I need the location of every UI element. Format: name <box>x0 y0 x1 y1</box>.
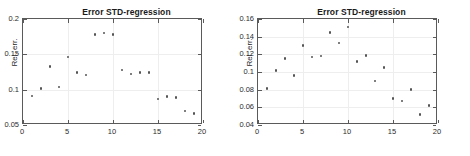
x-tick <box>113 19 114 23</box>
x-gridline <box>303 19 304 123</box>
y-gridline <box>258 107 436 108</box>
x-tick <box>68 19 69 23</box>
x-tick-label: 10 <box>108 127 116 136</box>
data-point <box>94 33 97 36</box>
data-point <box>148 71 151 74</box>
y-tick <box>433 125 437 126</box>
data-point <box>320 55 323 58</box>
x-tick <box>258 19 259 23</box>
x-tick <box>393 120 394 124</box>
data-point <box>383 66 386 69</box>
data-point <box>284 57 287 60</box>
x-tick-label: 20 <box>198 127 206 136</box>
y-tick <box>433 37 437 38</box>
y-gridline <box>23 90 201 91</box>
y-tick <box>198 19 202 20</box>
chart-title: Error STD-regression <box>235 7 470 17</box>
x-tick-label: 15 <box>388 127 396 136</box>
x-gridline <box>68 19 69 123</box>
y-tick <box>23 90 27 91</box>
data-point <box>275 69 278 72</box>
x-tick <box>303 120 304 124</box>
x-tick <box>23 19 24 23</box>
x-tick <box>158 120 159 124</box>
y-tick-label: 0.12 <box>235 49 254 58</box>
data-point <box>58 86 61 89</box>
y-tick <box>23 54 27 55</box>
y-tick <box>198 125 202 126</box>
x-tick-label: 5 <box>65 127 69 136</box>
x-tick <box>303 19 304 23</box>
y-tick-label: 0.04 <box>235 120 254 129</box>
y-gridline <box>23 54 201 55</box>
y-tick-label: 0.08 <box>235 84 254 93</box>
data-point <box>311 56 314 59</box>
y-tick-label: 0.2 <box>0 14 19 23</box>
data-point <box>175 96 178 99</box>
y-tick-label: 0.15 <box>0 49 19 58</box>
y-tick <box>23 125 27 126</box>
data-point <box>166 95 169 98</box>
x-tick <box>438 19 439 23</box>
x-tick-label: 5 <box>300 127 304 136</box>
y-tick <box>198 90 202 91</box>
data-point <box>392 97 395 100</box>
data-point <box>139 71 142 74</box>
data-point <box>76 71 79 74</box>
x-tick <box>348 19 349 23</box>
data-point <box>193 112 196 115</box>
data-point <box>365 54 368 57</box>
y-gridline <box>258 54 436 55</box>
y-tick <box>433 72 437 73</box>
y-tick <box>258 125 262 126</box>
data-point <box>356 60 359 63</box>
plot-area <box>257 18 437 124</box>
y-tick-label: 0.06 <box>235 102 254 111</box>
data-point <box>302 44 305 47</box>
x-tick-label: 0 <box>20 127 24 136</box>
x-tick <box>258 120 259 124</box>
chart-panel-left: Error STD-regression Rel. err. 0.050.10.… <box>0 0 235 156</box>
y-tick-label: 0.16 <box>235 14 254 23</box>
x-tick <box>393 19 394 23</box>
data-point <box>31 95 34 98</box>
plot-area <box>22 18 202 124</box>
y-tick-label: 0.14 <box>235 31 254 40</box>
data-point <box>121 69 124 72</box>
chart-panel-right: Error STD-regression Rel. err. 0.040.060… <box>235 0 470 156</box>
y-tick-label: 0.1 <box>235 67 254 76</box>
y-tick <box>258 37 262 38</box>
x-gridline <box>158 19 159 123</box>
y-tick-label: 0.1 <box>0 84 19 93</box>
x-gridline <box>348 19 349 123</box>
x-tick <box>348 120 349 124</box>
x-tick-label: 10 <box>343 127 351 136</box>
data-point <box>338 42 341 45</box>
data-point <box>419 113 422 116</box>
data-point <box>374 80 377 83</box>
x-tick <box>68 120 69 124</box>
data-point <box>130 73 133 76</box>
x-tick <box>203 120 204 124</box>
y-tick <box>433 54 437 55</box>
x-tick-label: 20 <box>433 127 441 136</box>
x-gridline <box>393 19 394 123</box>
y-tick <box>198 54 202 55</box>
data-point <box>293 74 296 77</box>
data-point <box>49 65 52 68</box>
data-point <box>329 31 332 34</box>
x-tick-label: 0 <box>255 127 259 136</box>
x-tick <box>438 120 439 124</box>
y-tick <box>433 90 437 91</box>
x-tick <box>158 19 159 23</box>
data-point <box>40 87 43 90</box>
y-tick <box>258 72 262 73</box>
y-gridline <box>258 37 436 38</box>
data-point <box>103 32 106 35</box>
y-tick <box>258 107 262 108</box>
y-tick-label: 0.05 <box>0 120 19 129</box>
data-point <box>85 74 88 77</box>
y-gridline <box>258 72 436 73</box>
figure-row: Error STD-regression Rel. err. 0.050.10.… <box>0 0 470 156</box>
x-tick <box>203 19 204 23</box>
